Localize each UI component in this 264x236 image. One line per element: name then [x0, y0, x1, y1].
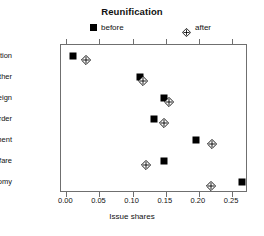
y-category-label: Reunification [0, 50, 12, 59]
y-category-label: Welfare [0, 156, 12, 165]
data-point-before [161, 158, 168, 165]
legend-entry-after: after [182, 21, 211, 34]
x-tick-label: 0.15 [152, 196, 178, 205]
x-tick-label: 0.05 [85, 196, 111, 205]
crossed-diamond-marker-icon [182, 23, 191, 32]
x-tick-label: 0.20 [185, 196, 211, 205]
x-tick-top [166, 39, 167, 45]
data-point-after [206, 177, 216, 187]
x-tick-top [232, 39, 233, 45]
y-category-label: Economy [0, 177, 12, 186]
data-point-after [141, 156, 151, 166]
legend-entry-before: before [90, 21, 124, 34]
y-category-label: Environment [0, 135, 12, 144]
plot-inner [61, 45, 246, 191]
data-point-after [164, 93, 174, 103]
x-tick-top [199, 39, 200, 45]
x-tick-top [133, 39, 134, 45]
data-point-after [159, 114, 169, 124]
chart-title: Reunification [0, 6, 264, 17]
chart-legend: before after [60, 21, 247, 34]
y-category-label: Foreign [0, 92, 12, 101]
data-point-before [150, 116, 157, 123]
plot-area [60, 44, 247, 192]
data-point-after [207, 135, 217, 145]
y-category-label: Law and order [0, 114, 12, 123]
chart-root: Reunification before after Issue shares … [0, 0, 264, 236]
data-point-after [81, 51, 91, 61]
legend-label-before: before [101, 24, 124, 32]
x-tick-label: 0.25 [218, 196, 244, 205]
data-point-before [192, 137, 199, 144]
data-point-after [138, 72, 148, 82]
legend-label-after: after [195, 24, 211, 32]
data-point-before [69, 52, 76, 59]
x-tick-label: 0.00 [52, 196, 78, 205]
filled-square-marker-icon [90, 24, 97, 31]
data-point-before [239, 179, 246, 186]
y-category-label: Other [0, 71, 12, 80]
x-tick-top [66, 39, 67, 45]
x-tick-label: 0.10 [119, 196, 145, 205]
x-tick-top [99, 39, 100, 45]
x-axis-title: Issue shares [0, 212, 264, 221]
